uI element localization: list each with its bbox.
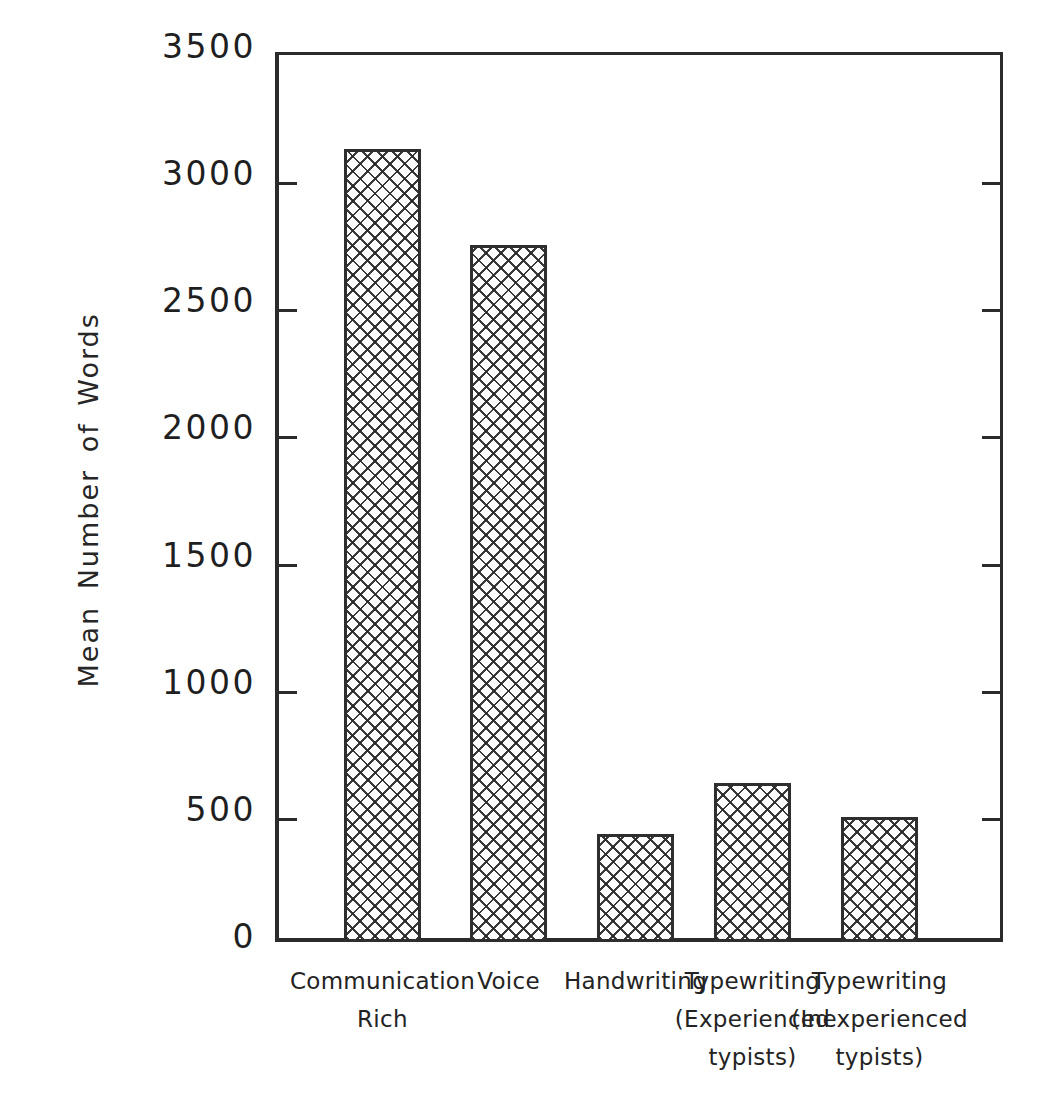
bar-chart-figure: Mean Number of Words 0500100015002000250… [0, 0, 1039, 1101]
bar [344, 149, 421, 942]
y-axis-tick-labels: 0500100015002000250030003500 [98, 0, 256, 1101]
x-tick-label-line: Typewriting [772, 962, 987, 1000]
y-tick-label: 3000 [106, 157, 256, 190]
y-tick-label: 500 [106, 793, 256, 826]
bar [470, 245, 547, 942]
bar [597, 834, 674, 942]
y-tick-label: 1000 [106, 666, 256, 699]
y-tick-label: 1500 [106, 539, 256, 572]
y-tick-label: 3500 [106, 30, 256, 63]
y-tick-label: 0 [106, 920, 256, 953]
x-tick-label-line: (Inexperienced [772, 1000, 987, 1038]
x-tick-label: Typewriting(Inexperiencedtypists) [772, 962, 987, 1076]
x-tick-label-line: Rich [268, 1000, 498, 1038]
x-tick-label-line: typists) [772, 1038, 987, 1076]
x-axis-tick-labels: CommunicationRichVoiceHandwritingTypewri… [0, 962, 1039, 1101]
y-tick-label: 2500 [106, 284, 256, 317]
y-tick-label: 2000 [106, 411, 256, 444]
bars-layer [275, 52, 1003, 942]
bar [714, 783, 791, 942]
bar [841, 817, 918, 942]
